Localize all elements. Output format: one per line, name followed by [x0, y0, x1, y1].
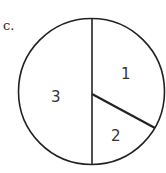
divided-circle-diagram: 1 2 3	[0, 0, 166, 173]
region-1-label: 1	[121, 65, 131, 83]
region-3-label: 3	[51, 88, 61, 106]
region-2-label: 2	[111, 127, 121, 145]
